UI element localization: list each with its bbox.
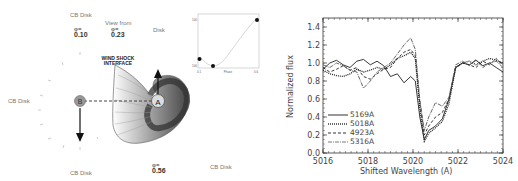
y-tick-label: 1.2 [307, 41, 320, 50]
svg-text:A: A [155, 98, 161, 107]
svg-text:0.1: 0.1 [197, 70, 202, 74]
svg-text:0.6: 0.6 [254, 70, 259, 74]
y-tick-label: 0.4 [307, 113, 320, 122]
velocity-arrow-b-icon [76, 133, 84, 142]
y-tick-label: 0.8 [307, 77, 320, 86]
binary-orbit-diagram: B A WIND SHOCK INTERFACE CB Disk View fr… [0, 0, 262, 181]
legend-item-3: 5316A [328, 137, 398, 146]
legend-item-0: 5169A [328, 110, 398, 119]
y-tick-label: 1.4 [307, 23, 320, 32]
y-tick-label: 0.0 [307, 149, 320, 158]
y-axis-title: Normalized flux [286, 47, 295, 127]
velocity-arrow-a-icon [154, 69, 162, 78]
x-tick-label: 5024 [493, 157, 513, 166]
x-tick-label: 5020 [403, 157, 423, 166]
x-tick-label: 5018 [358, 157, 378, 166]
chart-plot-area: 50165018502050225024 0.00.20.40.60.81.01… [262, 0, 518, 181]
inset-plot: 100 -100 0.1 Phase 0.6 [192, 13, 260, 75]
wind-shock-spiral [113, 65, 189, 143]
spectral-line-chart: 50165018502050225024 0.00.20.40.60.81.01… [262, 0, 518, 181]
x-axis-title: Shifted Wavelength (A) [360, 167, 452, 176]
x-tick-label: 5022 [448, 157, 468, 166]
phase-label-0: φ=0.10 [74, 26, 88, 38]
cb-disk-label-top: CB Disk [70, 12, 92, 18]
svg-text:INTERFACE: INTERFACE [104, 60, 133, 66]
legend-item-2: 4923A [328, 128, 398, 137]
legend-item-1: 5018A [328, 119, 398, 128]
phase-label-1: φ=0.23 [111, 26, 125, 38]
disk-label: Disk [153, 27, 165, 33]
svg-text:B: B [78, 98, 83, 105]
cb-disk-label-bottom-right: CB Disk [210, 164, 232, 170]
y-tick-label: 0.2 [307, 131, 320, 140]
y-tick-label: 0.6 [307, 95, 320, 104]
svg-text:100: 100 [192, 18, 197, 22]
svg-text:-100: -100 [192, 64, 197, 68]
x-tick-label: 5016 [313, 157, 333, 166]
inset-plot-graphic: 100 -100 0.1 Phase 0.6 [192, 13, 260, 75]
inset-point-1 [211, 64, 215, 68]
svg-text:Phase: Phase [224, 70, 233, 74]
inset-point-0 [198, 57, 202, 61]
phase-label-2: φ=0.56 [152, 162, 166, 174]
legend: 5169A 5018A 4923A 5316A [328, 110, 398, 146]
cb-disk-label-left: CB Disk [8, 98, 30, 104]
inset-point-2 [255, 18, 259, 22]
y-tick-label: 1.0 [307, 59, 320, 68]
cb-disk-label-bottom-left: CB Disk [70, 170, 92, 176]
